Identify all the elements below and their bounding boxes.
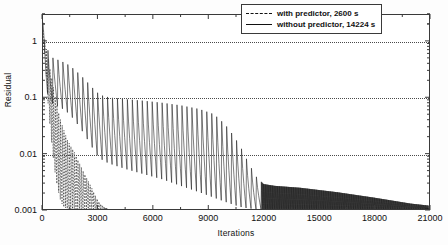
x-tick-label: 6000 xyxy=(143,213,163,223)
gridline-horizontal xyxy=(43,155,429,156)
x-tick-label: 12000 xyxy=(251,213,276,223)
residual-convergence-chart: Residual 10.10.010.001 03000600090001200… xyxy=(0,0,448,245)
x-tick-label: 18000 xyxy=(362,213,387,223)
y-tick-label: 0.001 xyxy=(14,206,37,215)
legend-solid-line-icon xyxy=(246,20,272,29)
y-tick-label: 1 xyxy=(32,36,37,45)
gridline-horizontal xyxy=(43,42,429,43)
legend-label-with-predictor: with predictor, 2600 s xyxy=(277,9,358,18)
x-tick-label: 0 xyxy=(39,213,44,223)
series-curve-with-predictor xyxy=(43,30,107,209)
plot-area xyxy=(42,14,430,210)
legend-entry-without-predictor: without predictor, 14224 s xyxy=(246,19,375,30)
x-tick-label: 21000 xyxy=(417,213,442,223)
x-tick-label: 9000 xyxy=(198,213,218,223)
legend-dashed-line-icon xyxy=(246,9,272,18)
x-tick-label: 15000 xyxy=(307,213,332,223)
x-axis-title: Iterations xyxy=(42,228,430,238)
x-tick-label: 3000 xyxy=(87,213,107,223)
legend-entry-with-predictor: with predictor, 2600 s xyxy=(246,8,375,19)
x-axis-tick-labels: 030006000900012000150001800021000 xyxy=(42,213,430,227)
y-axis-tick-labels: 10.10.010.001 xyxy=(0,14,40,210)
chart-legend: with predictor, 2600 s without predictor… xyxy=(241,4,382,34)
data-curves xyxy=(43,15,429,209)
series-curve-without-predictor xyxy=(43,23,429,209)
y-tick-label: 0.01 xyxy=(19,149,37,158)
legend-label-without-predictor: without predictor, 14224 s xyxy=(277,20,375,29)
gridline-horizontal xyxy=(43,98,429,99)
y-tick-label: 0.1 xyxy=(24,93,37,102)
